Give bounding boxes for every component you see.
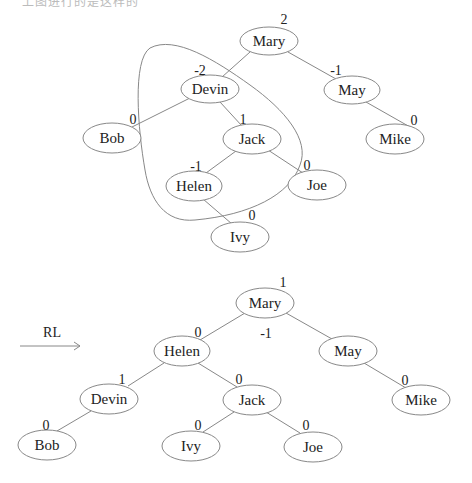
rotation-label: RL [43, 325, 61, 340]
balance-factor: 1 [280, 275, 287, 290]
edge-may-mike [364, 363, 406, 388]
svg-text:Ivy: Ivy [181, 438, 201, 454]
svg-text:Jack: Jack [239, 131, 266, 147]
balance-factor: 0 [304, 158, 311, 173]
svg-text:Mary: Mary [249, 295, 282, 311]
node-jack: Jack 0 [223, 372, 281, 415]
svg-text:Mary: Mary [253, 33, 286, 49]
node-ivy: Ivy 0 [211, 208, 269, 252]
tree-before: Mary 2 Devin -2 May -1 Bob 0 Jack 1 Mike… [83, 12, 424, 252]
edge-jack-ivy [203, 412, 234, 432]
svg-text:Bob: Bob [34, 437, 59, 453]
balance-factor: 0 [249, 208, 256, 223]
balance-factor: 0 [195, 325, 202, 340]
edge-jack-joe [266, 412, 300, 433]
balance-factor: 2 [281, 12, 288, 27]
edge-may-mike [366, 102, 410, 127]
balance-factor: 0 [402, 373, 409, 388]
node-bob: Bob 0 [18, 418, 76, 460]
tree-after: Mary 1 Helen 0 May -1 Devin 1 Jack 0 Mik… [18, 275, 450, 462]
edge-mary-may [286, 313, 332, 339]
edge-mary-may [288, 52, 336, 79]
balance-factor: 0 [130, 112, 137, 127]
node-devin: Devin 1 [80, 372, 138, 414]
node-mary: Mary 2 [240, 12, 298, 55]
edge-jack-helen [206, 151, 236, 173]
balance-factor: 1 [240, 112, 247, 127]
svg-text:Mike: Mike [379, 131, 411, 147]
svg-text:Ivy: Ivy [230, 229, 250, 245]
node-mike: Mike 0 [392, 373, 450, 415]
balance-factor: -2 [194, 63, 206, 78]
svg-text:May: May [338, 82, 366, 98]
node-may: May -1 [260, 326, 377, 366]
svg-text:Helen: Helen [164, 343, 200, 359]
node-helen: Helen -1 [166, 159, 222, 201]
node-jack: Jack 1 [223, 112, 281, 154]
edge-helen-devin [128, 363, 164, 386]
svg-text:Devin: Devin [91, 391, 128, 407]
balance-factor: 0 [236, 372, 243, 387]
edge-jack-joe [268, 150, 303, 173]
rotation-arrow: RL [20, 325, 80, 350]
svg-text:May: May [334, 343, 362, 359]
edge-helen-jack [198, 363, 237, 387]
node-may: May -1 [324, 63, 380, 104]
svg-text:Joe: Joe [307, 177, 327, 193]
svg-text:Joe: Joe [303, 439, 323, 455]
node-mary: Mary 1 [236, 275, 294, 318]
node-joe: Joe 0 [284, 418, 342, 462]
edge-helen-ivy [203, 199, 232, 224]
balance-factor: -1 [330, 63, 342, 78]
svg-text:Helen: Helen [176, 178, 212, 194]
node-joe: Joe 0 [288, 158, 346, 200]
edge-devin-bob [132, 98, 190, 127]
svg-text:Jack: Jack [239, 392, 266, 408]
node-helen: Helen 0 [154, 325, 210, 366]
edge-devin-bob [57, 411, 91, 431]
svg-text:Devin: Devin [192, 81, 229, 97]
node-mike: Mike 0 [366, 113, 424, 154]
balance-factor: 0 [411, 113, 418, 128]
node-bob: Bob 0 [83, 112, 141, 153]
edge-mary-helen [200, 313, 245, 340]
svg-text:Bob: Bob [99, 130, 124, 146]
balance-factor: 1 [119, 372, 126, 387]
avl-rotation-diagram: Mary 2 Devin -2 May -1 Bob 0 Jack 1 Mike… [0, 0, 472, 483]
edge-mary-devin [222, 52, 250, 77]
balance-factor: -1 [190, 159, 202, 174]
balance-factor: 0 [195, 418, 202, 433]
balance-factor: -1 [260, 326, 272, 341]
balance-factor: 0 [43, 418, 50, 433]
svg-text:Mike: Mike [405, 392, 437, 408]
node-ivy: Ivy 0 [162, 418, 220, 461]
balance-factor: 0 [303, 418, 310, 433]
